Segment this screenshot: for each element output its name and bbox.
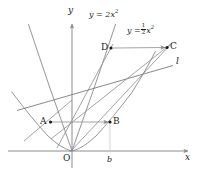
point-label-B: B xyxy=(113,117,120,126)
y-axis-label: y xyxy=(68,6,73,15)
eq-wide-lhs: y xyxy=(127,26,132,35)
point-D-dot xyxy=(109,46,112,49)
origin-label: O xyxy=(63,154,70,163)
segment-DC xyxy=(113,48,165,49)
curve-wide-parabola xyxy=(12,51,156,151)
point-C-dot xyxy=(165,46,168,49)
eq-steep-equals: = xyxy=(96,10,103,19)
eq-steep-pow: 2 xyxy=(115,8,118,14)
equation-steep-parabola: y = 2x2 xyxy=(89,11,118,19)
point-B-dot xyxy=(108,120,111,123)
equation-wide-parabola: y =12x2 xyxy=(127,23,154,36)
point-label-D: D xyxy=(101,43,108,52)
figure-canvas xyxy=(0,0,197,173)
eq-wide-pow: 2 xyxy=(151,24,154,30)
eq-wide-equals: = xyxy=(134,26,141,35)
ray-center-to-C xyxy=(51,43,172,139)
ray-O-to-C xyxy=(70,45,170,152)
point-label-A: A xyxy=(40,117,47,126)
parabola-figure: y x O b A B C D l y = 2x2 y =12x2 xyxy=(0,0,197,173)
point-label-C: C xyxy=(170,42,177,51)
eq-steep-lhs: y xyxy=(89,10,94,19)
point-A-dot xyxy=(49,120,52,123)
x-axis-label: x xyxy=(185,153,190,162)
line-l-label: l xyxy=(176,57,179,66)
tick-label-b: b xyxy=(107,156,112,164)
